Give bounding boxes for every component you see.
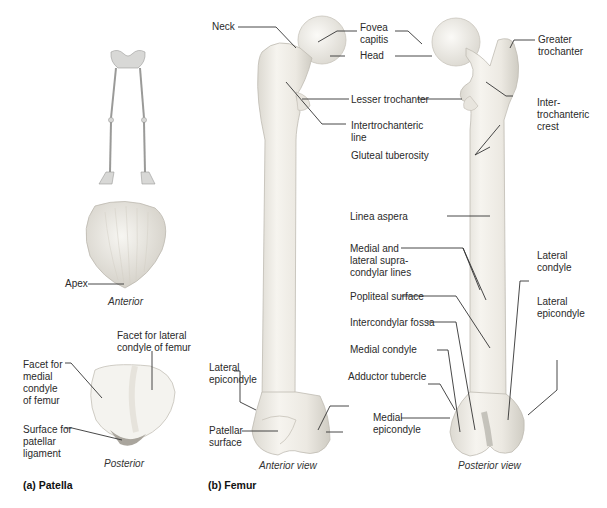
label-apex: Apex [65,278,88,290]
label-lateral-epicondyle-posterior: Lateral epicondyle [537,296,585,320]
label-intertrochanteric-line: Intertrochanteric line [351,120,423,144]
label-neck: Neck [212,21,235,33]
caption-patella: (a) Patella [23,479,73,491]
anatomy-figure: Apex Anterior Facet for lateral condyle … [0,0,607,508]
label-surface-ligament: Surface for patellar ligament [23,424,72,460]
label-supracondylar-lines: Medial and lateral supra- condylar lines [350,243,411,279]
label-greater-trochanter: Greater trochanter [538,34,583,58]
label-intercondylar-fossa: Intercondylar fossa [350,317,435,329]
label-intertrochanteric-crest: Inter- trochanteric crest [537,97,589,133]
label-lateral-epicondyle-anterior: Lateral epicondyle [209,362,257,386]
bone-illustrations [0,0,607,508]
label-facet-medial: Facet for medial condyle of femur [23,359,62,407]
femur-anterior [252,16,346,455]
label-patellar-surface: Patellar surface [209,425,243,449]
view-label-patella-posterior: Posterior [104,458,144,470]
label-facet-lateral: Facet for lateral condyle of femur [117,330,191,354]
label-lesser-trochanter: Lesser trochanter [351,94,429,106]
label-medial-condyle: Medial condyle [350,344,417,356]
label-head: Head [360,50,384,62]
view-label-femur-posterior: Posterior view [458,460,521,472]
caption-femur: (b) Femur [208,479,256,491]
label-fovea-capitis: Fovea capitis [360,22,388,46]
label-linea-aspera: Linea aspera [350,211,408,223]
label-lateral-condyle: Lateral condyle [537,250,571,274]
view-label-patella-anterior: Anterior [108,296,143,308]
label-medial-epicondyle: Medial epicondyle [373,412,421,436]
patella-anterior [86,201,166,288]
view-label-femur-anterior: Anterior view [259,460,317,472]
label-adductor-tubercle: Adductor tubercle [348,371,426,383]
skeleton-thumbnail-icon [99,50,155,184]
label-popliteal-surface: Popliteal surface [350,291,424,303]
label-gluteal-tuberosity: Gluteal tuberosity [351,150,429,162]
